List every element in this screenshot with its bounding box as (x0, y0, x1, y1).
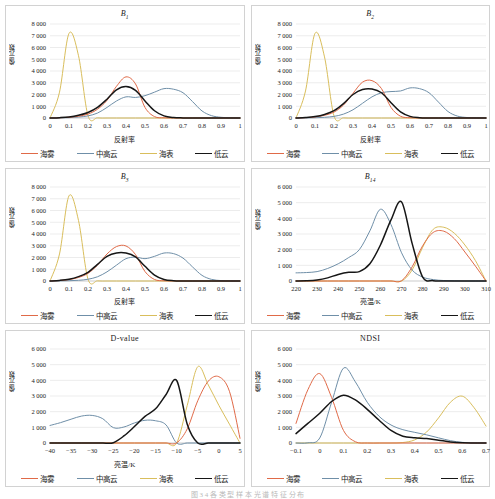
y-tick-label: 4 000 (277, 67, 292, 74)
y-tick-label: 8 000 (277, 20, 292, 27)
y-ticks-b3: 01 0002 0003 0004 0005 0006 0007 0008 00… (31, 183, 46, 284)
x-axis-label-b3: 反射率 (6, 296, 244, 306)
series-curve-海雾 (296, 80, 486, 118)
legend-item-海表[interactable]: 海表 (385, 473, 418, 484)
y-tick-label: 6 000 (277, 183, 292, 190)
y-tick-label: 5 000 (277, 199, 292, 206)
legend-item-低云[interactable]: 低云 (441, 473, 474, 484)
y-ticks-b14: 01 0002 0003 0004 0005 0006 000 (277, 183, 292, 284)
legend-item-海雾[interactable]: 海雾 (21, 148, 54, 159)
y-axis-label-b2: 像元数 (254, 44, 264, 65)
legend-item-海表[interactable]: 海表 (385, 310, 418, 321)
y-axis-label-b14: 像元数 (254, 209, 264, 230)
legend-swatch-icon (267, 153, 284, 154)
x-tick-label: 1 (238, 285, 241, 292)
y-tick-label: 3 000 (31, 79, 46, 86)
curves-b14 (296, 201, 486, 282)
legend-item-中高云[interactable]: 中高云 (77, 148, 117, 159)
y-tick-label: 1 000 (277, 261, 292, 268)
y-axis-label-ndsi: 像元数 (254, 371, 264, 392)
figure-caption: 图 3 4 各 类 型 样 本 光 谱 特 征 分 布 (0, 490, 495, 499)
legend-item-中高云[interactable]: 中高云 (322, 473, 362, 484)
chart-panel-dvalue: D-value 01 0002 0003 0004 0005 0006 000 … (5, 330, 245, 487)
x-axis-label-dvalue: 亮温/K (6, 459, 244, 469)
x-tick-label: 0.1 (65, 122, 73, 129)
x-tick-label: 0.7 (179, 285, 188, 292)
y-tick-label: 0 (288, 440, 291, 447)
y-tick-label: 4 000 (31, 377, 46, 384)
y-tick-label: 0 (43, 440, 46, 447)
x-tick-label: 0.2 (329, 122, 337, 129)
x-tick-label: 0.2 (363, 447, 371, 454)
y-tick-label: 2 000 (31, 408, 46, 415)
chart-panel-b3: B3 01 0002 0003 0004 0005 0006 0007 0008… (5, 168, 245, 325)
x-tick-label: 0 (217, 447, 220, 454)
x-tick-label: 1 (484, 122, 487, 129)
x-tick-label: 0.9 (217, 285, 225, 292)
y-tick-label: 3 000 (277, 79, 292, 86)
series-curve-中高云 (296, 368, 486, 444)
x-tick-label: 0.1 (339, 447, 347, 454)
legend-item-海雾[interactable]: 海雾 (267, 148, 300, 159)
legend-item-海雾[interactable]: 海雾 (267, 473, 300, 484)
legend-label: 中高云 (341, 473, 362, 484)
gridlines-b1 (50, 24, 240, 118)
legend-item-低云[interactable]: 低云 (195, 310, 228, 321)
y-tick-label: 1 000 (31, 424, 46, 431)
legend-dvalue: 海雾中高云海表低云 (10, 473, 240, 484)
x-tick-label: 0.1 (65, 285, 73, 292)
legend-item-低云[interactable]: 低云 (441, 310, 474, 321)
legend-item-海表[interactable]: 海表 (140, 148, 173, 159)
series-curve-低云 (50, 380, 240, 445)
legend-item-海雾[interactable]: 海雾 (21, 473, 54, 484)
legend-item-海雾[interactable]: 海雾 (21, 310, 54, 321)
legend-item-低云[interactable]: 低云 (195, 473, 228, 484)
y-tick-label: 3 000 (277, 230, 292, 237)
x-tick-label: 0.4 (122, 285, 131, 292)
y-tick-label: 2 000 (31, 91, 46, 98)
x-tick-label: 0 (48, 285, 51, 292)
y-tick-label: 1 000 (31, 265, 46, 272)
y-tick-label: 4 000 (277, 214, 292, 221)
legend-item-海表[interactable]: 海表 (140, 310, 173, 321)
series-curve-海雾 (50, 376, 240, 444)
legend-label: 海表 (159, 148, 173, 159)
x-tick-label: 0 (294, 122, 297, 129)
x-tick-label: 0.2 (84, 122, 92, 129)
y-tick-label: 4 000 (31, 230, 46, 237)
y-tick-label: 7 000 (31, 32, 46, 39)
legend-swatch-icon (140, 478, 157, 479)
x-ticks-ndsi: −0.100.10.20.30.40.50.60.7 (290, 447, 491, 454)
legend-item-海雾[interactable]: 海雾 (267, 310, 300, 321)
y-tick-label: 5 000 (277, 56, 292, 63)
y-tick-label: 4 000 (277, 377, 292, 384)
chart-grid: B1 01 0002 0003 0004 0005 0006 0007 0008… (0, 0, 495, 490)
legend-b2: 海雾中高云海表低云 (256, 148, 486, 159)
gridlines-b14 (296, 187, 486, 281)
legend-label: 海表 (404, 310, 418, 321)
legend-item-中高云[interactable]: 中高云 (77, 473, 117, 484)
legend-item-低云[interactable]: 低云 (195, 148, 228, 159)
legend-item-低云[interactable]: 低云 (441, 148, 474, 159)
x-tick-label: −25 (108, 447, 118, 454)
x-tick-label: −15 (150, 447, 160, 454)
legend-swatch-icon (322, 315, 339, 316)
legend-item-中高云[interactable]: 中高云 (322, 148, 362, 159)
legend-item-中高云[interactable]: 中高云 (77, 310, 117, 321)
x-tick-label: 0.1 (310, 122, 318, 129)
y-tick-label: 8 000 (31, 183, 46, 190)
legend-label: 海表 (404, 148, 418, 159)
x-tick-label: 0.7 (424, 122, 433, 129)
legend-swatch-icon (140, 315, 157, 316)
legend-label: 海表 (159, 310, 173, 321)
legend-item-海表[interactable]: 海表 (385, 148, 418, 159)
x-ticks-b14: 220230240250260270280290300310 (291, 285, 491, 292)
legend-item-海表[interactable]: 海表 (140, 473, 173, 484)
chart-panel-ndsi: NDSI 01 0002 0003 0004 0005 0006 000 −0.… (251, 330, 491, 487)
x-axis-label-b2: 反射率 (252, 134, 490, 144)
series-curve-海表 (296, 396, 486, 443)
legend-swatch-icon (21, 153, 38, 154)
x-tick-label: 0 (318, 447, 321, 454)
y-tick-label: 0 (43, 114, 46, 121)
legend-item-中高云[interactable]: 中高云 (322, 310, 362, 321)
